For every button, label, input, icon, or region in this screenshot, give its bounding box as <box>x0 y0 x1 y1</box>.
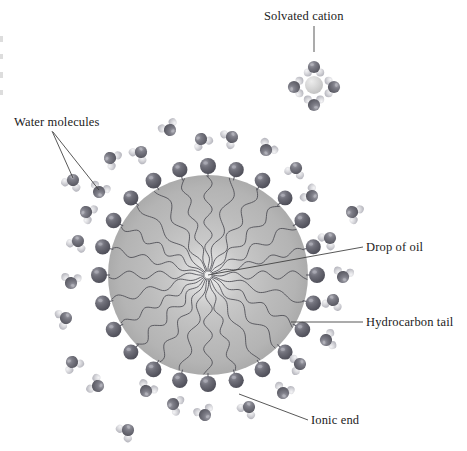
scan-edge-artifacts <box>0 36 3 95</box>
diagram-canvas: Solvated cationWater moleculesDrop of oi… <box>0 0 467 451</box>
water-molecule <box>192 403 216 425</box>
scan-artifact <box>0 72 3 78</box>
ionic-end <box>106 213 122 229</box>
water-molecule <box>325 77 341 97</box>
ionic-end <box>123 190 138 205</box>
water-molecule <box>219 125 243 150</box>
ionic-end <box>295 322 311 338</box>
scan-artifact <box>0 54 3 59</box>
water-molecule <box>288 77 304 97</box>
ionic-end <box>229 162 244 177</box>
ionic-end <box>123 345 138 360</box>
water-molecule <box>134 378 159 402</box>
water-molecule <box>321 291 345 311</box>
water-molecule <box>60 170 85 193</box>
ionic-end <box>255 173 271 189</box>
water-molecule <box>100 146 124 171</box>
water-molecule <box>54 306 76 330</box>
water-molecule <box>127 141 153 166</box>
ionic-end <box>95 296 110 311</box>
ionic-end <box>91 267 107 283</box>
ionic-end <box>146 173 162 189</box>
water-molecule <box>114 418 139 444</box>
label-drop-of-oil: Drop of oil <box>366 240 424 254</box>
solvated-cation <box>288 61 340 111</box>
ionic-end <box>146 362 162 378</box>
label-ionic-end: Ionic end <box>311 413 360 427</box>
ionic-end <box>106 322 122 338</box>
water-molecule <box>164 392 186 416</box>
ionic-end <box>200 158 216 174</box>
water-molecule <box>235 396 261 420</box>
water-molecule <box>289 353 308 376</box>
water-molecule <box>283 159 307 181</box>
ionic-end <box>309 267 325 283</box>
water-molecule <box>304 96 324 112</box>
ionic-end <box>172 373 187 388</box>
water-molecule <box>85 372 109 397</box>
water-molecule <box>87 180 111 202</box>
micelle-diagram: Solvated cationWater moleculesDrop of oi… <box>0 0 467 451</box>
label-hydrocarbon-tail: Hydrocarbon tail <box>366 315 454 329</box>
ionic-end <box>295 213 311 229</box>
water-molecule <box>318 328 337 351</box>
water-molecule <box>271 381 295 403</box>
ionic-end <box>278 191 293 206</box>
label-solvated-cation: Solvated cation <box>264 9 344 23</box>
ionic-end <box>255 362 271 378</box>
scan-artifact <box>0 36 3 42</box>
ionic-end <box>306 296 321 311</box>
ionic-end <box>95 239 110 254</box>
label-water-molecules: Water molecules <box>14 115 100 129</box>
ionic-end <box>306 239 321 254</box>
water-molecule <box>332 266 355 285</box>
water-molecule <box>254 136 280 161</box>
water-molecule <box>60 352 85 376</box>
water-molecule <box>189 129 214 153</box>
ionic-end <box>172 162 187 177</box>
scan-artifact <box>0 90 3 95</box>
cation-core <box>305 76 323 94</box>
water-molecule <box>76 200 100 225</box>
ionic-end <box>200 376 216 392</box>
ionic-end <box>229 373 244 388</box>
water-molecule <box>60 273 82 290</box>
water-molecule <box>304 61 324 77</box>
water-molecule <box>342 200 366 225</box>
leader-line-water-molecules <box>52 131 73 178</box>
water-molecule <box>156 117 181 141</box>
water-molecule <box>65 231 90 254</box>
water-molecule <box>298 182 323 208</box>
